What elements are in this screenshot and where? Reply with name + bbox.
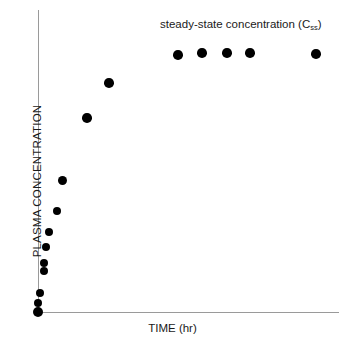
data-point xyxy=(58,176,67,185)
x-axis-line xyxy=(38,312,339,313)
annotation-main-text: steady-state concentration (C xyxy=(160,18,310,30)
steady-state-annotation: steady-state concentration (Css) xyxy=(160,18,322,30)
data-point xyxy=(42,243,50,251)
data-point xyxy=(53,207,61,215)
data-point xyxy=(311,49,321,59)
y-axis-label: PLASMA CONCENTRATION xyxy=(31,71,43,291)
data-point xyxy=(245,48,255,58)
plasma-concentration-chart: PLASMA CONCENTRATION TIME (hr) steady-st… xyxy=(0,0,345,350)
x-axis-label: TIME (hr) xyxy=(0,322,345,334)
data-point xyxy=(222,48,232,58)
annotation-subscript: ss xyxy=(310,23,318,32)
annotation-closing-paren: ) xyxy=(318,18,322,30)
data-point xyxy=(197,48,207,58)
data-point xyxy=(82,113,92,123)
data-point xyxy=(45,228,53,236)
data-point xyxy=(173,50,183,60)
data-point xyxy=(104,78,114,88)
scatter-plot-area xyxy=(0,0,345,350)
